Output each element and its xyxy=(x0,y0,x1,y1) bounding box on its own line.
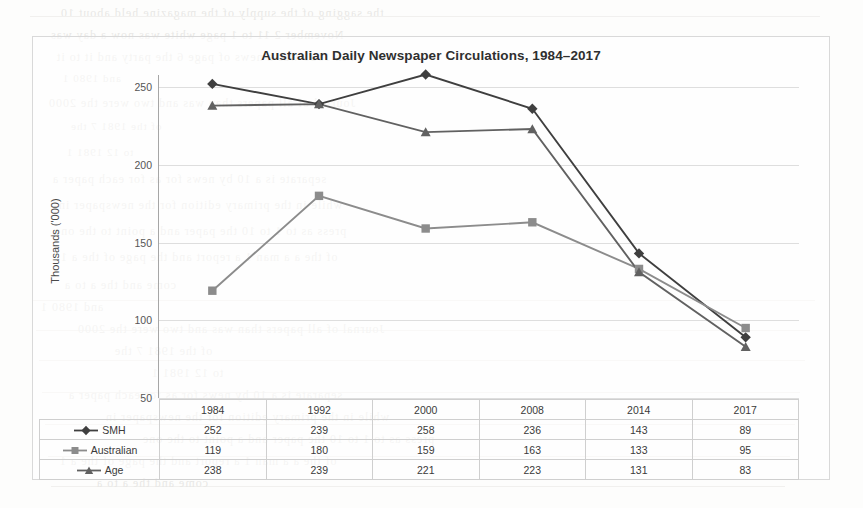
data-point-marker xyxy=(421,224,429,232)
plot-area: 50100150200250 xyxy=(159,87,799,398)
table-cell: 236 xyxy=(479,420,586,440)
table-cell: 239 xyxy=(266,460,373,480)
data-table: 198419922000200820142017 SMH252239258236… xyxy=(39,399,799,480)
table-row: SMH25223925823614389 xyxy=(40,420,799,440)
legend-marker-triangle xyxy=(76,465,102,476)
legend-marker-diamond xyxy=(73,425,99,436)
table-cell: 83 xyxy=(692,460,799,480)
table-column-header: 2017 xyxy=(692,400,799,420)
legend-label: Age xyxy=(105,464,124,476)
data-point-marker xyxy=(207,79,217,89)
table-cell: 89 xyxy=(692,420,799,440)
data-point-marker xyxy=(420,69,430,79)
data-point-marker xyxy=(208,287,216,295)
gridline xyxy=(159,243,799,244)
legend-entry-age: Age xyxy=(40,460,160,480)
table-cell: 143 xyxy=(586,420,693,440)
series-line-smh xyxy=(212,75,745,338)
table-column-header: 2014 xyxy=(586,400,693,420)
table-corner-cell xyxy=(40,400,160,420)
table-header-row: 198419922000200820142017 xyxy=(40,400,799,420)
table-row: Age23823922122313183 xyxy=(40,460,799,480)
data-point-marker xyxy=(315,192,323,200)
legend-label: Australian xyxy=(91,444,138,456)
legend-entry-australian: Australian xyxy=(40,440,160,460)
table-column-header: 2000 xyxy=(373,400,480,420)
table-row: Australian11918015916313395 xyxy=(40,440,799,460)
table-cell: 239 xyxy=(266,420,373,440)
table-column-header: 2008 xyxy=(479,400,586,420)
table-body: SMH25223925823614389Australian1191801591… xyxy=(40,420,799,480)
table-cell: 133 xyxy=(586,440,693,460)
legend-marker-square xyxy=(62,445,88,456)
table-cell: 131 xyxy=(586,460,693,480)
series-lines xyxy=(159,87,459,237)
table-cell: 221 xyxy=(373,460,480,480)
chart-container: Australian Daily Newspaper Circulations,… xyxy=(32,36,830,480)
gridline xyxy=(159,320,799,321)
y-axis-tick-label: 200 xyxy=(134,159,152,171)
table-cell: 159 xyxy=(373,440,480,460)
table-cell: 163 xyxy=(479,440,586,460)
data-point-marker xyxy=(741,324,749,332)
table-column-header: 1992 xyxy=(266,400,373,420)
table-cell: 180 xyxy=(266,440,373,460)
table-cell: 238 xyxy=(160,460,267,480)
y-axis-tick-label: 150 xyxy=(134,237,152,249)
table-cell: 223 xyxy=(479,460,586,480)
table-column-header: 1984 xyxy=(160,400,267,420)
legend-entry-smh: SMH xyxy=(40,420,160,440)
data-point-marker xyxy=(528,218,536,226)
legend-label: SMH xyxy=(102,424,125,436)
y-axis-tick-label: 250 xyxy=(134,81,152,93)
table-cell: 119 xyxy=(160,440,267,460)
series-line-australian xyxy=(212,196,745,328)
table-cell: 252 xyxy=(160,420,267,440)
table-cell: 258 xyxy=(373,420,480,440)
chart-title: Australian Daily Newspaper Circulations,… xyxy=(33,48,829,63)
y-axis-title: Thousands ('000) xyxy=(49,161,61,321)
y-axis-tick-label: 100 xyxy=(134,314,152,326)
table-cell: 95 xyxy=(692,440,799,460)
